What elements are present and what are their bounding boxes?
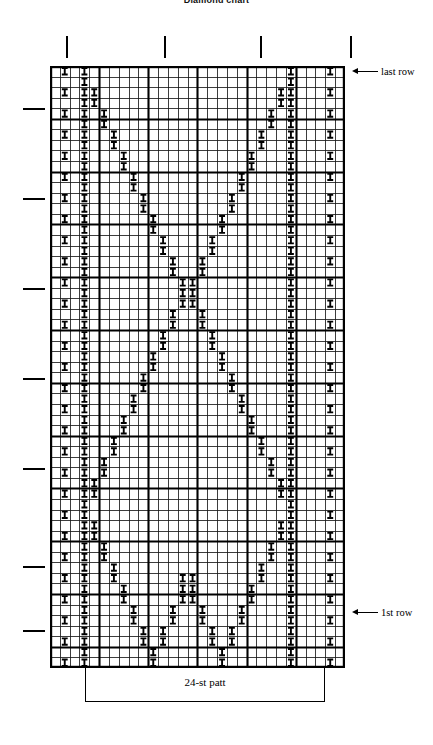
column-tick-1 — [164, 36, 166, 58]
page-title: Diamond chart — [0, 0, 433, 5]
stitch-chart-canvas — [50, 66, 345, 668]
pattern-repeat-label: 24-st patt — [85, 676, 325, 688]
arrow-left-icon — [352, 609, 378, 617]
row-tick-5 — [23, 566, 45, 568]
row-tick-2 — [23, 288, 45, 290]
row-tick-0 — [23, 108, 45, 110]
stitch-chart-grid — [50, 66, 345, 668]
row-tick-6 — [23, 630, 45, 632]
first-row-label: 1st row — [381, 607, 412, 618]
first-row-annotation: 1st row — [352, 607, 412, 618]
column-tick-3 — [350, 36, 352, 58]
last-row-annotation: last row — [352, 66, 415, 77]
row-tick-4 — [23, 468, 45, 470]
row-tick-3 — [23, 378, 45, 380]
row-tick-1 — [23, 198, 45, 200]
column-tick-2 — [260, 36, 262, 58]
arrow-left-icon — [352, 68, 378, 76]
last-row-label: last row — [381, 66, 415, 77]
column-tick-0 — [66, 36, 68, 58]
